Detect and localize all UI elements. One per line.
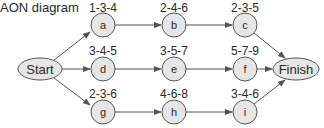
node-a-id: a: [100, 19, 107, 31]
node-g-id: g: [100, 106, 106, 118]
node-f: 5-7-9 f: [231, 44, 259, 81]
node-b-id: b: [171, 19, 177, 31]
node-g-times: 2-3-6: [89, 87, 117, 101]
node-h-id: h: [171, 106, 177, 118]
node-e: 3-5-7 e: [160, 44, 188, 81]
node-a: 1-3-4 a: [89, 1, 117, 37]
edge-start-g: [54, 78, 90, 105]
node-i-times: 3-4-6: [231, 87, 259, 101]
aon-network: Start Finish 1-3-4 a 2-4-6 b 2-3-5 c 3-4…: [0, 0, 324, 128]
node-i: 3-4-6 i: [231, 87, 259, 124]
edge-start-a: [54, 32, 90, 60]
node-d-id: d: [100, 63, 106, 75]
node-d: 3-4-5 d: [89, 44, 117, 81]
node-h-times: 4-6-8: [160, 87, 188, 101]
finish-label: Finish: [279, 62, 314, 77]
node-b: 2-4-6 b: [160, 1, 188, 37]
node-i-id: i: [244, 106, 246, 118]
start-node: Start: [18, 58, 62, 80]
node-h: 4-6-8 h: [160, 87, 188, 124]
node-e-times: 3-5-7: [160, 44, 188, 58]
node-d-times: 3-4-5: [89, 44, 117, 58]
finish-node: Finish: [273, 58, 319, 80]
node-f-times: 5-7-9: [231, 44, 259, 58]
node-c: 2-3-5 c: [231, 1, 259, 37]
node-e-id: e: [171, 63, 177, 75]
node-c-id: c: [242, 19, 248, 31]
node-g: 2-3-6 g: [89, 87, 117, 124]
start-label: Start: [26, 62, 54, 77]
